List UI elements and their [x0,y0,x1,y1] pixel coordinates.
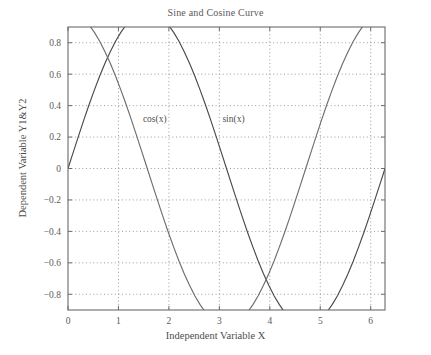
y-tick-label: 0.4 [49,101,61,111]
series-annotations: cos(x)sin(x) [143,114,245,125]
x-tick-label: 4 [267,316,272,326]
y-tick-label: 0.8 [49,38,61,48]
y-tick-label: −0.4 [44,227,61,237]
plot-area: −0.8−0.6−0.4−0.200.20.40.60.80123456 cos… [0,0,431,355]
y-tick-label: 0.6 [49,70,61,80]
y-tick-label: −0.2 [44,195,61,205]
y-tick-label: −0.6 [44,258,61,268]
x-axis-label: Independent Variable X [0,330,431,341]
x-tick-label: 5 [318,316,323,326]
x-tick-label: 3 [217,316,222,326]
y-tick-label: −0.8 [44,290,61,300]
series-annotation: cos(x) [143,114,167,125]
x-tick-label: 0 [66,316,71,326]
y-tick-label: 0.2 [49,132,61,142]
x-tick-label: 6 [368,316,373,326]
x-tick-label: 2 [167,316,172,326]
series-annotation: sin(x) [222,114,244,125]
x-tick-label: 1 [116,316,121,326]
y-tick-label: 0 [56,164,61,174]
chart-canvas: Sine and Cosine Curve −0.8−0.6−0.4−0.200… [0,0,431,355]
axis-tick-labels: −0.8−0.6−0.4−0.200.20.40.60.80123456 [44,38,374,326]
